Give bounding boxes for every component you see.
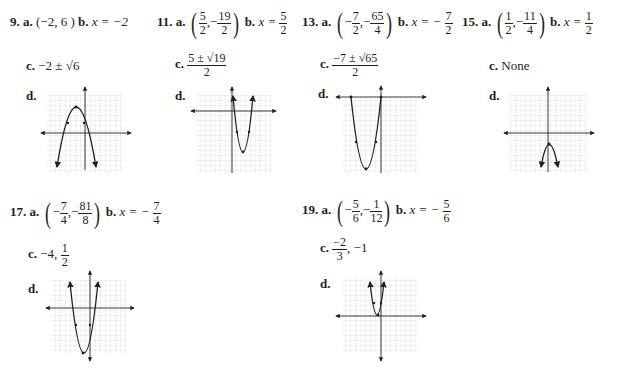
graph-9 xyxy=(41,87,131,172)
graph-13 xyxy=(336,86,426,173)
parabola-graphs xyxy=(0,0,619,371)
graph-17 xyxy=(46,271,134,361)
graph-19 xyxy=(336,271,426,361)
graph-11 xyxy=(191,87,276,173)
graph-15 xyxy=(504,87,594,172)
